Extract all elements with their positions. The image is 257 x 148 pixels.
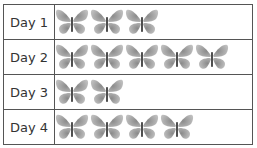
table-row: Day 1 [4, 5, 253, 40]
table-row: Day 3 [4, 75, 253, 110]
day-label: Day 1 [4, 5, 55, 40]
butterfly-icon [125, 43, 159, 71]
butterfly-icon [125, 113, 159, 141]
butterfly-icon [55, 8, 89, 36]
butterfly-icon [90, 8, 124, 36]
butterfly-icon [125, 8, 159, 36]
pictograph-table: Day 1Day 2Day 3Day 4 [3, 4, 253, 145]
butterfly-count-cell [55, 40, 253, 75]
butterfly-icon [90, 43, 124, 71]
butterfly-count-cell [55, 75, 253, 110]
butterfly-icon [55, 43, 89, 71]
day-label: Day 3 [4, 75, 55, 110]
butterfly-icon [90, 113, 124, 141]
butterfly-icon [160, 113, 194, 141]
table-row: Day 4 [4, 110, 253, 145]
butterfly-count-cell [55, 5, 253, 40]
day-label: Day 2 [4, 40, 55, 75]
butterfly-count-cell [55, 110, 253, 145]
butterfly-icon [160, 43, 194, 71]
butterfly-icon [55, 113, 89, 141]
butterfly-icon [195, 43, 229, 71]
day-label: Day 4 [4, 110, 55, 145]
butterfly-icon [55, 78, 89, 106]
butterfly-icon [90, 78, 124, 106]
table-row: Day 2 [4, 40, 253, 75]
